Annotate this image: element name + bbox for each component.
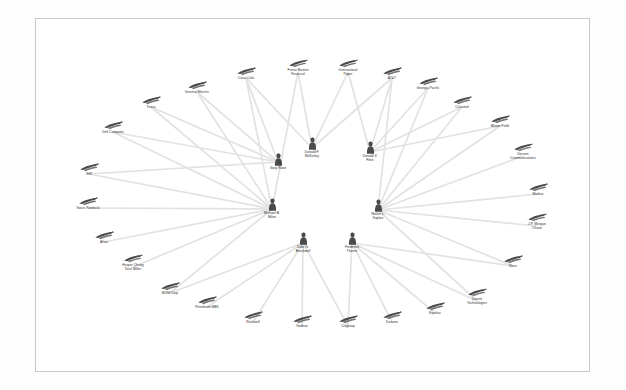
node-label: IHR (86, 173, 92, 177)
node-label: Donald F. McKinley (305, 151, 319, 159)
node-label: Tosco (147, 106, 156, 110)
company-icon (513, 143, 533, 152)
node-label: Sodexo (296, 325, 307, 329)
node-label: Coca-Cola (238, 77, 254, 81)
company-node-c05[interactable]: Georgia Pacific (391, 77, 465, 91)
company-node-c26[interactable]: General Electric (160, 81, 234, 95)
node-label: Danone (386, 321, 398, 325)
node-label: Gary Rose (270, 167, 286, 171)
company-node-c24[interactable]: Dell Computer (76, 121, 150, 135)
company-node-c08[interactable]: Verizon Communications (486, 143, 560, 161)
company-icon (490, 115, 510, 124)
company-icon (382, 67, 402, 76)
company-icon (382, 311, 402, 320)
node-label: Firstar Boston Financial (287, 69, 308, 77)
company-node-c06[interactable]: Circuited (425, 96, 499, 110)
node-label: Bloom Field (491, 125, 509, 129)
company-node-c23[interactable]: IHR (52, 163, 126, 177)
person-icon (348, 232, 357, 245)
company-icon (288, 59, 308, 68)
node-label: Altria (100, 241, 108, 245)
node-label: Ross (509, 265, 517, 269)
company-node-c19[interactable]: MGM Corp (133, 282, 207, 296)
node-label: Circuited (455, 106, 468, 110)
person-icon (268, 198, 277, 211)
company-icon (292, 315, 312, 324)
person-node-p3[interactable]: Donald V. Fites (333, 141, 407, 163)
company-node-c20[interactable]: Harper Chang Deal Miller (96, 254, 170, 272)
company-icon (187, 81, 207, 90)
node-label: Michael B. Miles (264, 212, 280, 220)
company-node-c25[interactable]: Tosco (114, 96, 188, 110)
company-icon (197, 296, 217, 305)
node-label: Dale G. Brockwell (296, 246, 311, 254)
node-label: Verizon Communications (510, 153, 535, 161)
node-label: Citigroup (341, 325, 355, 329)
company-icon (79, 163, 99, 172)
company-icon (527, 213, 547, 222)
company-node-c22[interactable]: Sears Roebuck (51, 197, 125, 211)
person-node-p4[interactable]: Michael B. Miles (235, 198, 309, 220)
company-node-c11[interactable]: Ross (476, 255, 550, 269)
company-icon (123, 254, 143, 263)
company-icon (418, 77, 438, 86)
company-icon (236, 67, 256, 76)
company-node-c10[interactable]: J.P. Morgan Chase (500, 213, 574, 231)
company-icon (78, 197, 98, 206)
person-icon (366, 141, 375, 154)
company-node-c17[interactable]: Rockwell (216, 311, 290, 325)
node-label: Harper Chang Deal Miller (122, 264, 143, 272)
company-icon (425, 302, 445, 311)
company-node-c07[interactable]: Bloom Field (463, 115, 537, 129)
node-label: Sears Roebuck (76, 207, 99, 211)
node-label: Walter L. Kaplan (371, 213, 385, 221)
node-label: J.P. Morgan Chase (528, 223, 546, 231)
company-node-c21[interactable]: Altria (67, 231, 141, 245)
company-icon (467, 288, 487, 297)
node-label: Medius (533, 193, 544, 197)
graph-viewer: Coca-ColaFirstar Boston FinancialInterna… (0, 0, 626, 390)
node-label: MGM Corp (162, 292, 179, 296)
company-icon (503, 255, 523, 264)
company-icon (103, 121, 123, 130)
company-node-c18[interactable]: Petroleum MBK (170, 296, 244, 310)
node-label: Equifax (429, 312, 440, 316)
person-icon (374, 199, 383, 212)
company-icon (528, 183, 548, 192)
company-icon (94, 231, 114, 240)
node-label: General Electric (185, 91, 209, 95)
company-icon (243, 311, 263, 320)
node-label: Rockwell (246, 321, 260, 325)
person-node-p7[interactable]: Frederick Thorne (315, 232, 389, 254)
person-icon (299, 232, 308, 245)
node-label: Dell Computer (102, 131, 124, 135)
company-icon (141, 96, 161, 105)
node-label: Donald V. Fites (363, 155, 378, 163)
person-node-p5[interactable]: Walter L. Kaplan (341, 199, 415, 221)
company-node-c09[interactable]: Medius (501, 183, 575, 197)
person-icon (308, 137, 317, 150)
company-icon (338, 315, 358, 324)
company-icon (160, 282, 180, 291)
node-label: Frederick Thorne (345, 246, 359, 254)
company-icon (452, 96, 472, 105)
node-label: Petroleum MBK (195, 306, 219, 310)
node-label: Georgia Pacific (416, 87, 439, 91)
